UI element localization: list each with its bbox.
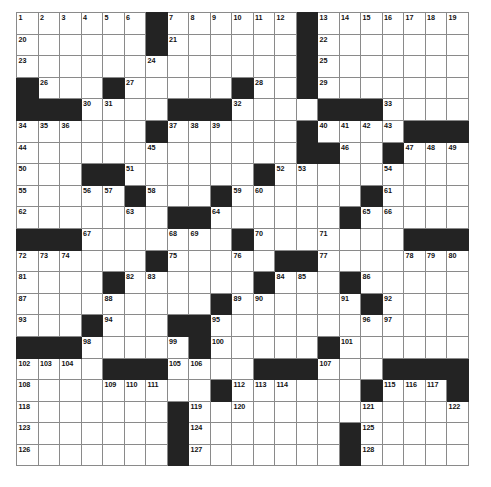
- crossword-cell[interactable]: 66: [382, 207, 404, 229]
- crossword-cell[interactable]: [210, 250, 232, 272]
- crossword-cell[interactable]: [124, 315, 146, 337]
- crossword-cell[interactable]: [404, 401, 426, 423]
- crossword-cell[interactable]: 68: [167, 228, 189, 250]
- crossword-cell[interactable]: [447, 315, 469, 337]
- crossword-cell[interactable]: [124, 56, 146, 78]
- crossword-cell[interactable]: [361, 164, 383, 186]
- crossword-cell[interactable]: [425, 336, 447, 358]
- crossword-cell[interactable]: 56: [81, 185, 103, 207]
- crossword-cell[interactable]: 31: [103, 99, 125, 121]
- crossword-cell[interactable]: [60, 293, 82, 315]
- crossword-cell[interactable]: [38, 401, 60, 423]
- crossword-cell[interactable]: [404, 293, 426, 315]
- crossword-cell[interactable]: 49: [447, 142, 469, 164]
- crossword-cell[interactable]: 67: [81, 228, 103, 250]
- crossword-cell[interactable]: 39: [210, 120, 232, 142]
- crossword-cell[interactable]: [361, 228, 383, 250]
- crossword-cell[interactable]: [232, 164, 254, 186]
- crossword-cell[interactable]: [124, 120, 146, 142]
- crossword-cell[interactable]: [253, 336, 275, 358]
- crossword-cell[interactable]: [275, 401, 297, 423]
- crossword-cell[interactable]: [189, 380, 211, 402]
- crossword-cell[interactable]: [210, 164, 232, 186]
- crossword-cell[interactable]: 29: [318, 77, 340, 99]
- crossword-cell[interactable]: [38, 207, 60, 229]
- crossword-cell[interactable]: [404, 336, 426, 358]
- crossword-cell[interactable]: 2: [38, 13, 60, 35]
- crossword-cell[interactable]: [425, 56, 447, 78]
- crossword-cell[interactable]: [253, 401, 275, 423]
- crossword-cell[interactable]: [361, 358, 383, 380]
- crossword-cell[interactable]: [60, 142, 82, 164]
- crossword-cell[interactable]: 24: [146, 56, 168, 78]
- crossword-cell[interactable]: [296, 293, 318, 315]
- crossword-cell[interactable]: 60: [253, 185, 275, 207]
- crossword-cell[interactable]: [382, 250, 404, 272]
- crossword-cell[interactable]: 43: [382, 120, 404, 142]
- crossword-cell[interactable]: [124, 401, 146, 423]
- crossword-cell[interactable]: [103, 336, 125, 358]
- crossword-cell[interactable]: 89: [232, 293, 254, 315]
- crossword-cell[interactable]: [361, 77, 383, 99]
- crossword-cell[interactable]: [167, 164, 189, 186]
- crossword-cell[interactable]: [339, 56, 361, 78]
- crossword-cell[interactable]: [296, 315, 318, 337]
- crossword-cell[interactable]: [318, 207, 340, 229]
- crossword-cell[interactable]: 44: [17, 142, 39, 164]
- crossword-cell[interactable]: 69: [189, 228, 211, 250]
- crossword-cell[interactable]: 77: [318, 250, 340, 272]
- crossword-cell[interactable]: [167, 185, 189, 207]
- crossword-cell[interactable]: [275, 99, 297, 121]
- crossword-cell[interactable]: [275, 228, 297, 250]
- crossword-cell[interactable]: 80: [447, 250, 469, 272]
- crossword-cell[interactable]: 101: [339, 336, 361, 358]
- crossword-cell[interactable]: [232, 207, 254, 229]
- crossword-cell[interactable]: [275, 34, 297, 56]
- crossword-cell[interactable]: 102: [17, 358, 39, 380]
- crossword-cell[interactable]: 73: [38, 250, 60, 272]
- crossword-cell[interactable]: [361, 142, 383, 164]
- crossword-cell[interactable]: 36: [60, 120, 82, 142]
- crossword-cell[interactable]: [146, 293, 168, 315]
- crossword-cell[interactable]: [124, 336, 146, 358]
- crossword-cell[interactable]: 99: [167, 336, 189, 358]
- crossword-cell[interactable]: 79: [425, 250, 447, 272]
- crossword-cell[interactable]: [339, 164, 361, 186]
- crossword-cell[interactable]: 15: [361, 13, 383, 35]
- crossword-cell[interactable]: [425, 34, 447, 56]
- crossword-cell[interactable]: [232, 444, 254, 466]
- crossword-cell[interactable]: [146, 228, 168, 250]
- crossword-cell[interactable]: 59: [232, 185, 254, 207]
- crossword-cell[interactable]: [318, 315, 340, 337]
- crossword-cell[interactable]: 112: [232, 380, 254, 402]
- crossword-cell[interactable]: [124, 142, 146, 164]
- crossword-cell[interactable]: 85: [296, 272, 318, 294]
- crossword-cell[interactable]: 117: [425, 380, 447, 402]
- crossword-cell[interactable]: 57: [103, 185, 125, 207]
- crossword-cell[interactable]: 92: [382, 293, 404, 315]
- crossword-cell[interactable]: [38, 293, 60, 315]
- crossword-cell[interactable]: 76: [232, 250, 254, 272]
- crossword-cell[interactable]: 91: [339, 293, 361, 315]
- crossword-cell[interactable]: 62: [17, 207, 39, 229]
- crossword-cell[interactable]: 34: [17, 120, 39, 142]
- crossword-cell[interactable]: [60, 185, 82, 207]
- crossword-cell[interactable]: 110: [124, 380, 146, 402]
- crossword-cell[interactable]: [60, 77, 82, 99]
- crossword-cell[interactable]: 74: [60, 250, 82, 272]
- crossword-cell[interactable]: [447, 444, 469, 466]
- crossword-cell[interactable]: [382, 228, 404, 250]
- crossword-cell[interactable]: 17: [404, 13, 426, 35]
- crossword-cell[interactable]: [447, 77, 469, 99]
- crossword-cell[interactable]: [232, 272, 254, 294]
- crossword-cell[interactable]: 116: [404, 380, 426, 402]
- crossword-cell[interactable]: [81, 207, 103, 229]
- crossword-cell[interactable]: [404, 77, 426, 99]
- crossword-cell[interactable]: [146, 315, 168, 337]
- crossword-cell[interactable]: [275, 293, 297, 315]
- crossword-cell[interactable]: [103, 207, 125, 229]
- crossword-cell[interactable]: [103, 142, 125, 164]
- crossword-cell[interactable]: [339, 315, 361, 337]
- crossword-cell[interactable]: [318, 272, 340, 294]
- crossword-cell[interactable]: [253, 34, 275, 56]
